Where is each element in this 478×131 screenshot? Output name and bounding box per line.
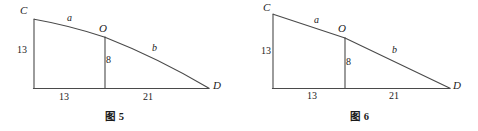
vertex-label-o: O	[99, 23, 107, 34]
vertex-label-c: C	[20, 5, 27, 16]
segment-a	[273, 14, 345, 38]
measure-label-bottom-right: 21	[143, 92, 153, 102]
measure-label-bottom-right: 21	[389, 91, 399, 101]
vertex-label-c: C	[263, 2, 270, 13]
segment-b	[345, 38, 450, 88]
measure-label-bottom-left: 13	[307, 91, 317, 101]
vertex-label-d: D	[453, 80, 461, 91]
measure-label-middle-height: 8	[106, 55, 111, 65]
figure-6-caption: 图 6	[350, 108, 369, 123]
figures-canvas: C O D a b 13 8 13 21 图 5 C O	[0, 0, 478, 131]
figure-5: C O D a b 13 8 13 21 图 5	[0, 0, 239, 131]
measure-label-middle-height: 8	[346, 57, 351, 67]
side-label-b: b	[152, 43, 157, 53]
measure-label-left-height: 13	[17, 45, 27, 55]
measure-label-left-height: 13	[261, 46, 271, 56]
side-label-b: b	[392, 45, 397, 55]
segment-b	[105, 37, 209, 88]
side-label-a: a	[314, 15, 319, 25]
side-label-a: a	[67, 13, 72, 23]
figure-5-caption: 图 5	[105, 108, 124, 123]
figure-6: C O D a b 13 8 13 21 图 6	[239, 0, 478, 131]
vertex-label-o: O	[338, 23, 346, 34]
vertex-label-d: D	[213, 80, 221, 91]
measure-label-bottom-left: 13	[59, 92, 69, 102]
